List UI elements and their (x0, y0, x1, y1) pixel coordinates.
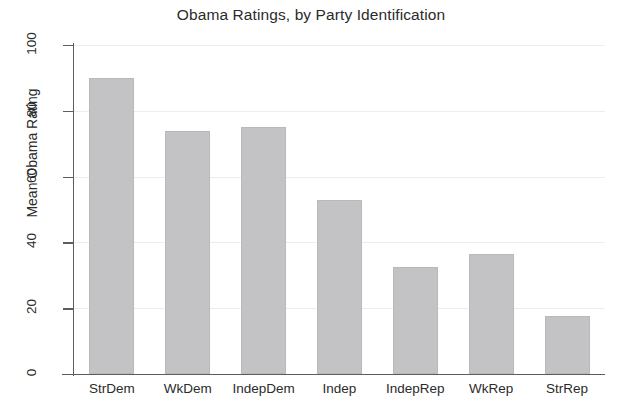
bar-strrep (545, 316, 590, 374)
y-tick-label: 80 (24, 89, 39, 129)
gridline (74, 45, 605, 46)
y-tick-mark (63, 177, 74, 178)
y-tick-mark (63, 242, 74, 243)
gridline (74, 111, 605, 112)
bar-indeprep (393, 267, 438, 374)
y-tick-label: 20 (24, 287, 39, 327)
bar-wkdem (165, 131, 210, 374)
chart-title: Obama Ratings, by Party Identification (0, 6, 622, 24)
y-axis-line (73, 43, 74, 376)
bar-indep (317, 200, 362, 374)
y-tick-mark (63, 374, 74, 375)
x-tick-label-strrep: StrRep (507, 381, 622, 396)
y-tick-label: 100 (24, 24, 39, 64)
y-tick-mark (63, 308, 74, 309)
y-tick-mark (63, 111, 74, 112)
y-tick-mark (63, 45, 74, 46)
bar-indepdem (241, 127, 286, 374)
bar-chart: Obama Ratings, by Party Identification M… (0, 0, 622, 420)
bar-strdem (89, 78, 134, 374)
y-tick-label: 60 (24, 155, 39, 195)
plot-area (74, 45, 605, 374)
gridline (74, 177, 605, 178)
y-tick-label: 0 (24, 353, 39, 393)
bar-wkrep (469, 254, 514, 374)
x-axis-line (62, 374, 605, 375)
y-tick-label: 40 (24, 221, 39, 261)
